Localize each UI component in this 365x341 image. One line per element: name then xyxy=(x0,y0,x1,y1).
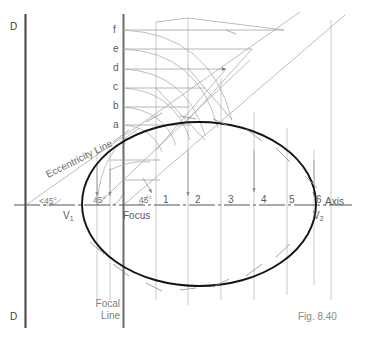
axis-division-6: 6 xyxy=(316,195,322,205)
focus-label: Focus xyxy=(123,211,150,221)
construction-arcs xyxy=(97,30,232,205)
angle-label-directrix: <45° xyxy=(39,197,57,206)
axis-division-1: 1 xyxy=(163,195,169,205)
vertex-v2-label: V2 xyxy=(313,211,324,221)
horizontal-ordinate-lines xyxy=(110,30,284,180)
figure-caption: Fig. 8.40 xyxy=(298,312,337,322)
construction-arrow-indicators xyxy=(97,30,314,196)
axis-division-2: 2 xyxy=(195,195,201,205)
ordinate-label-a: a xyxy=(113,120,119,130)
ordinate-label-c: c xyxy=(113,82,118,92)
directrix-label-bottom: D xyxy=(10,312,17,322)
diagonal-construction-lines xyxy=(26,12,345,205)
angle-label-vertex: 45° xyxy=(93,196,106,205)
axis-label: Axis xyxy=(325,197,344,207)
axis-division-5: 5 xyxy=(289,195,295,205)
ordinate-label-b: b xyxy=(113,101,119,111)
angle-label-focus: 45° xyxy=(139,196,152,205)
ordinate-vertical-lines xyxy=(97,18,331,305)
ordinate-label-e: e xyxy=(113,44,119,54)
axis-division-4: 4 xyxy=(261,195,267,205)
ordinate-label-d: d xyxy=(113,63,119,73)
axis-division-3: 3 xyxy=(228,195,234,205)
focal-line-label-line2: Line xyxy=(78,310,120,322)
ordinate-label-f: f xyxy=(113,25,116,35)
vertex-v1-label: V1 xyxy=(63,211,74,221)
focal-line-label-line1: Focal xyxy=(78,298,120,310)
focal-line-label: Focal Line xyxy=(78,298,120,322)
directrix-label-top: D xyxy=(10,22,17,32)
